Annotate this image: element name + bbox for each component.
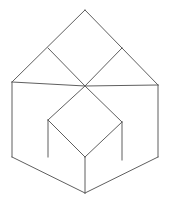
isometric-cube-drawing [0, 0, 170, 208]
figure-canvas [0, 0, 170, 208]
